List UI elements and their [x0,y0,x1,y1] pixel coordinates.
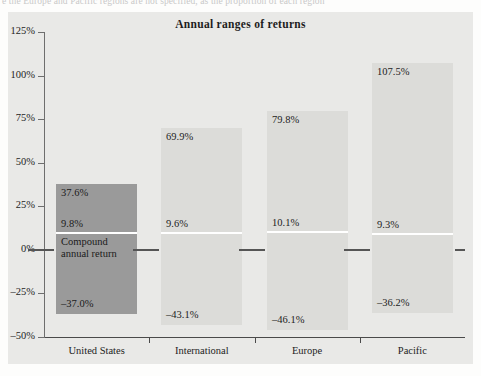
compound-return-line [372,233,453,235]
x-axis-category-label: United States [44,345,149,356]
bar-low-value: –37.0% [61,298,93,309]
compound-return-line [56,232,137,234]
x-tick [360,337,361,343]
y-tick-label: –25% [11,286,36,297]
bar-high-value: 79.8% [272,114,299,125]
y-axis-line [44,32,45,338]
zero-level-marker [239,249,265,251]
y-tick-label: 125% [11,25,36,36]
compound-return-line [267,231,348,233]
x-tick [255,337,256,343]
bar-low-value: –43.1% [166,309,198,320]
bar-compound-value: 9.8% [61,218,83,229]
y-tick-label: –50% [11,330,36,341]
bar-compound-value: 9.3% [377,219,399,230]
y-tick [38,163,45,164]
zero-level-marker [133,249,159,251]
compound-return-line [161,232,242,234]
annotation-line: Compound [61,236,117,249]
bar-compound-value: 9.6% [166,218,188,229]
bar-compound-value: 10.1% [272,217,299,228]
y-tick [38,293,45,294]
y-tick [38,32,45,33]
y-tick [38,119,45,120]
y-tick [38,206,45,207]
figure-page: e the Europe and Pacific regions are not… [0,0,481,376]
y-tick-label: 50% [16,156,35,167]
y-tick-label: 25% [16,199,35,210]
bar-low-value: –36.2% [377,297,409,308]
range-bar [372,63,453,313]
x-tick [149,337,150,343]
zero-level-marker [28,249,54,251]
plot-area: 125%100%75%50%25%0%–25%–50% 37.6%9.8%–37… [8,12,473,364]
x-axis-category-label: International [149,345,254,356]
annotation-line: annual return [61,248,117,261]
bar-high-value: 69.9% [166,131,193,142]
bar-high-value: 37.6% [61,187,88,198]
y-tick [38,76,45,77]
x-axis-category-label: Pacific [360,345,465,356]
compound-annual-return-annotation: Compoundannual return [61,236,117,261]
y-tick [38,337,45,338]
clipped-body-text-line: e the Europe and Pacific regions are not… [0,0,325,7]
y-tick-label: 75% [16,112,35,123]
chart-panel: Annual ranges of returns 125%100%75%50%2… [8,12,473,364]
bar-low-value: –46.1% [272,314,304,325]
x-axis-category-label: Europe [255,345,360,356]
y-tick-label: 100% [11,69,36,80]
zero-level-marker [344,249,370,251]
clipped-body-text: e the Europe and Pacific regions are not… [0,0,481,11]
bar-high-value: 107.5% [377,66,409,77]
zero-level-marker [455,249,465,251]
